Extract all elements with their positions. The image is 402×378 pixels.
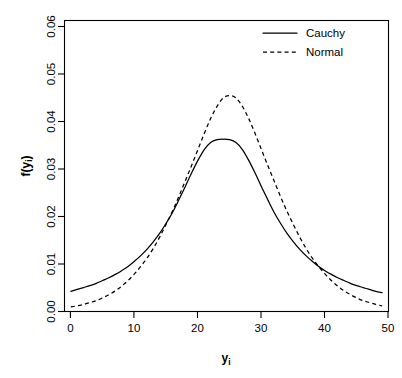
x-tick-label: 20 [191,322,204,334]
svg-text:f(yi): f(yi) [19,155,34,176]
x-tick-label: 10 [128,322,141,334]
density-comparison-plot: 0.00 0.01 0.02 0.03 0.04 0.05 0.06 f(yi)… [0,0,402,378]
y-axis-ticks [58,27,65,312]
y-axis-title-close: ) [19,155,33,159]
x-axis-tick-labels: 0 10 20 30 40 50 [67,322,394,334]
legend-label-normal: Normal [306,46,343,58]
x-tick-label: 40 [318,322,331,334]
chart-figure: 0.00 0.01 0.02 0.03 0.04 0.05 0.06 f(yi)… [0,0,402,378]
normal-density-curve [71,96,382,307]
y-tick-label: 0.00 [45,300,57,322]
chart-legend: Cauchy Normal [263,27,345,58]
x-axis-ticks [70,312,388,319]
plot-frame [65,21,389,312]
cauchy-density-curve [71,139,382,292]
x-tick-label: 0 [67,322,73,334]
legend-label-cauchy: Cauchy [306,27,345,39]
data-curves [71,96,382,307]
x-axis-title: yi [221,351,230,367]
y-tick-label: 0.05 [45,63,57,85]
y-tick-label: 0.02 [45,205,57,227]
x-axis-title-subscript: i [228,357,230,367]
x-tick-label: 50 [382,322,395,334]
y-tick-label: 0.04 [45,110,57,133]
y-axis-title: f(yi) [19,155,34,176]
y-tick-label: 0.03 [45,158,57,180]
y-tick-label: 0.06 [45,15,57,37]
y-tick-label: 0.01 [45,253,57,275]
y-axis-title-main: f(y [19,162,33,177]
x-tick-label: 30 [255,322,268,334]
y-axis-tick-labels: 0.00 0.01 0.02 0.03 0.04 0.05 0.06 [45,15,57,322]
